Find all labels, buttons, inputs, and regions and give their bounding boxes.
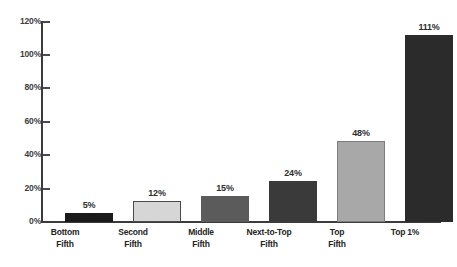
y-tick-0: 0% [0, 217, 41, 227]
bar-rect-second-fifth[interactable] [133, 201, 181, 222]
y-tick-100: 100% [0, 50, 41, 60]
bar-rect-next-to-top-fifth[interactable] [269, 181, 317, 222]
y-tick-label-40: 40% [7, 150, 41, 159]
bar-value-top-fifth: 48% [327, 128, 395, 138]
y-tick-label-20: 20% [7, 184, 41, 193]
bar-rect-middle-fifth[interactable] [201, 196, 249, 222]
y-tick-label-0: 0% [7, 217, 41, 226]
y-tick-label-100: 100% [7, 50, 41, 59]
bar-rect-top-fifth[interactable] [337, 141, 385, 222]
y-tick-label-120: 120% [7, 17, 41, 26]
y-tick-80: 80% [0, 83, 41, 93]
y-tick-120: 120% [0, 17, 41, 27]
y-tick-60: 60% [0, 117, 41, 127]
bar-value-second-fifth: 12% [123, 188, 191, 198]
x-label-top-fifth-line2: Fifth [291, 239, 383, 251]
bar-value-bottom-fifth: 5% [55, 200, 123, 210]
bar-value-middle-fifth: 15% [191, 183, 259, 193]
bar-value-top-1-percent: 111% [395, 22, 457, 32]
y-tick-label-60: 60% [7, 117, 41, 126]
bar-value-next-to-top-fifth: 24% [259, 168, 327, 178]
y-tick-20: 20% [0, 184, 41, 194]
y-tick-40: 40% [0, 150, 41, 160]
x-label-top-1-percent-line1: Top 1% [359, 227, 451, 239]
y-tick-label-80: 80% [7, 83, 41, 92]
x-label-top-1-percent: Top 1% [359, 227, 451, 239]
bar-rect-bottom-fifth[interactable] [65, 213, 113, 222]
bar-rect-top-1-percent[interactable] [405, 35, 453, 222]
